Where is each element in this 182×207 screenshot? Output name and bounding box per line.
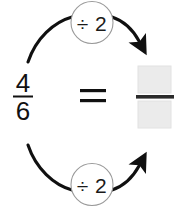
left-fraction-denominator: 6 — [16, 96, 30, 126]
left-fraction: 4 6 — [13, 68, 33, 126]
right-fraction-numerator-box[interactable] — [138, 66, 171, 93]
left-fraction-numerator: 4 — [16, 68, 30, 98]
top-operation-bubble[interactable]: ÷ 2 — [71, 2, 113, 44]
equals-sign — [80, 89, 106, 102]
top-operation-label: ÷ 2 — [77, 12, 108, 35]
bottom-operation-bubble[interactable]: ÷ 2 — [71, 164, 113, 206]
bottom-operation-label: ÷ 2 — [77, 174, 108, 197]
right-fraction — [136, 66, 174, 128]
right-fraction-denominator-box[interactable] — [138, 101, 171, 128]
diagram-canvas: 4 6 ÷ 2 ÷ 2 — [0, 0, 182, 207]
fraction-equivalence-diagram: 4 6 ÷ 2 ÷ 2 — [0, 0, 182, 207]
right-fraction-bar — [136, 95, 174, 99]
